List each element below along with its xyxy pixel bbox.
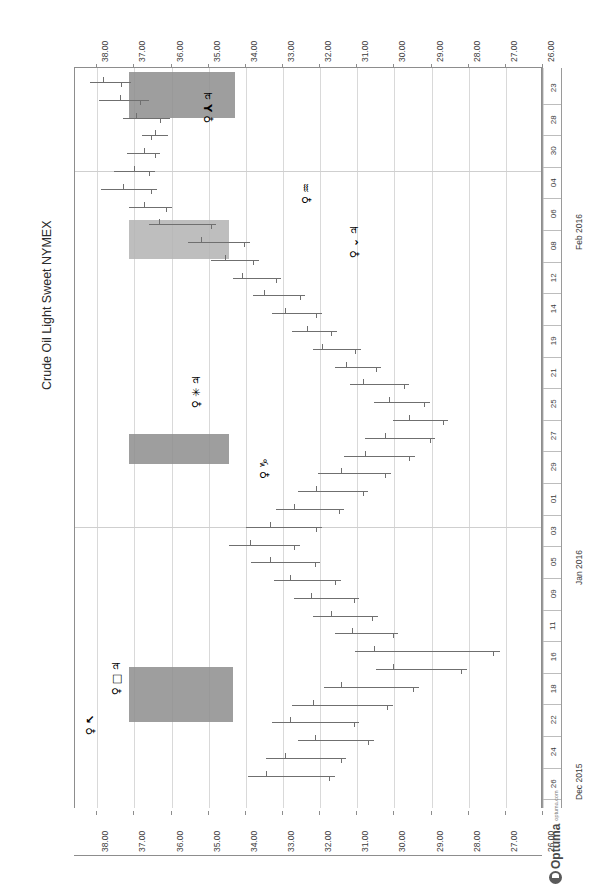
ohlc-close-tick bbox=[151, 135, 152, 140]
date-tick-label: 23 bbox=[543, 72, 563, 104]
ohlc-close-tick bbox=[404, 384, 405, 389]
date-tick-label: 25 bbox=[543, 388, 563, 420]
ohlc-open-tick bbox=[365, 451, 366, 456]
highlight-band bbox=[129, 667, 233, 722]
chart-page: Crude Oil Light Sweet NYMEX 38.0037.0036… bbox=[0, 0, 614, 890]
date-tick-label: 29 bbox=[543, 451, 563, 483]
ohlc-open-tick bbox=[201, 237, 202, 242]
ohlc-open-tick bbox=[290, 717, 291, 722]
date-tick-label: 04 bbox=[543, 167, 563, 199]
date-tick-label: 01 bbox=[543, 483, 563, 515]
ohlc-open-tick bbox=[136, 113, 137, 118]
ohlc-open-tick bbox=[285, 753, 286, 758]
ohlc-open-tick bbox=[270, 522, 271, 527]
ohlc-bar bbox=[233, 278, 281, 279]
ohlc-close-tick bbox=[276, 278, 277, 283]
ohlc-bar bbox=[272, 722, 359, 723]
date-tick-label: 06 bbox=[543, 198, 563, 230]
ohlc-close-tick bbox=[409, 456, 410, 461]
aspect-glyph: ♃ bbox=[202, 88, 215, 101]
price-tick-label: 30.00 bbox=[397, 831, 407, 852]
aspect-glyph: ♃ bbox=[348, 222, 361, 235]
price-tick-mark bbox=[245, 811, 246, 815]
ohlc-bar bbox=[253, 295, 305, 296]
ohlc-bar bbox=[274, 580, 341, 581]
ohlc-close-tick bbox=[300, 295, 301, 300]
date-tick-label: 14 bbox=[543, 293, 563, 325]
page-title: Crude Oil Light Sweet NYMEX bbox=[40, 220, 54, 390]
price-tick-label: 37.00 bbox=[137, 41, 147, 62]
ohlc-open-tick bbox=[266, 771, 267, 776]
ohlc-open-tick bbox=[307, 326, 308, 331]
plot-area bbox=[74, 68, 542, 808]
ohlc-bar bbox=[355, 651, 500, 652]
ohlc-bar bbox=[123, 118, 169, 119]
ohlc-open-tick bbox=[316, 486, 317, 491]
ohlc-open-tick bbox=[159, 219, 160, 224]
date-tick-label: 24 bbox=[543, 736, 563, 768]
ohlc-close-tick bbox=[393, 633, 394, 638]
ohlc-bar bbox=[298, 740, 374, 741]
ohlc-close-tick bbox=[149, 171, 150, 176]
price-tick-label: 29.00 bbox=[435, 41, 445, 62]
ohlc-bar bbox=[292, 705, 392, 706]
optuma-mark-icon bbox=[549, 871, 562, 884]
ohlc-open-tick bbox=[103, 77, 104, 82]
ohlc-bar bbox=[350, 384, 409, 385]
price-tick-label: 35.00 bbox=[212, 41, 222, 62]
ohlc-open-tick bbox=[322, 344, 323, 349]
ohlc-open-tick bbox=[315, 735, 316, 740]
aspect-glyph: ♒ bbox=[300, 180, 313, 193]
ohlc-open-tick bbox=[264, 290, 265, 295]
ohlc-bar bbox=[229, 545, 300, 546]
date-tick-label: 19 bbox=[543, 325, 563, 357]
price-axis-top: 38.0037.0036.0035.0034.0033.0032.0031.00… bbox=[74, 22, 542, 68]
ohlc-open-tick bbox=[144, 148, 145, 153]
price-tick-mark bbox=[208, 811, 209, 815]
optuma-wordmark: Optuma bbox=[549, 824, 563, 869]
price-tick-label: 31.00 bbox=[360, 831, 370, 852]
ohlc-open-tick bbox=[341, 682, 342, 687]
ohlc-close-tick bbox=[211, 224, 212, 229]
aspect-glyph: ♀ bbox=[84, 724, 97, 735]
ohlc-bar bbox=[292, 331, 337, 332]
ohlc-bar bbox=[276, 509, 345, 510]
ohlc-close-tick bbox=[315, 562, 316, 567]
month-label: Jan 2016 bbox=[574, 550, 584, 585]
price-tick-label: 38.00 bbox=[100, 831, 110, 852]
ohlc-bar bbox=[251, 562, 320, 563]
axis-line bbox=[74, 855, 542, 856]
price-tick-label: 33.00 bbox=[286, 831, 296, 852]
aspect-glyph: ♀ bbox=[348, 247, 361, 258]
ohlc-bar bbox=[393, 420, 449, 421]
ohlc-close-tick bbox=[316, 313, 317, 318]
ohlc-bar bbox=[211, 260, 259, 261]
ohlc-open-tick bbox=[225, 255, 226, 260]
date-tick-label: 30 bbox=[543, 135, 563, 167]
ohlc-bar bbox=[324, 687, 419, 688]
price-tick-mark bbox=[356, 811, 357, 815]
ohlc-bar bbox=[266, 758, 346, 759]
ohlc-bar bbox=[246, 527, 322, 528]
ohlc-bar bbox=[101, 189, 157, 190]
price-tick-label: 36.00 bbox=[175, 41, 185, 62]
ohlc-bar bbox=[374, 402, 430, 403]
date-tick-label: 08 bbox=[543, 230, 563, 262]
ohlc-open-tick bbox=[290, 575, 291, 580]
price-tick-label: 32.00 bbox=[323, 831, 333, 852]
aspect-glyph: ⌄ bbox=[348, 235, 361, 247]
price-tick-label: 28.00 bbox=[472, 41, 482, 62]
price-tick-mark bbox=[431, 811, 432, 815]
venus-sextile-jupiter-annotation: ♀✳♃ bbox=[190, 372, 203, 408]
ohlc-bar bbox=[313, 349, 361, 350]
ohlc-bar bbox=[298, 491, 369, 492]
price-tick-mark bbox=[96, 811, 97, 815]
aspect-glyph: ♀ bbox=[110, 684, 123, 695]
ohlc-open-tick bbox=[120, 95, 121, 100]
aspect-glyph: ♀ bbox=[202, 112, 215, 123]
ohlc-bar bbox=[335, 367, 381, 368]
ohlc-open-tick bbox=[385, 433, 386, 438]
ohlc-bar bbox=[248, 776, 335, 777]
date-tick-label: 28 bbox=[543, 104, 563, 136]
month-label: Feb 2016 bbox=[574, 214, 584, 250]
